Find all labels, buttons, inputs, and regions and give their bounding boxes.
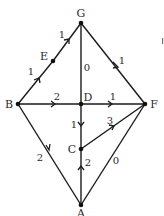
node-label-g: G [77,7,86,20]
weight-c-f: 3 [107,115,113,126]
edge-c-f [81,104,145,149]
node-label-b: B [5,98,13,111]
weight-g-d: 0 [84,62,90,73]
node-label-e: E [40,50,48,63]
node-c [79,147,84,152]
weight-d-f: 1 [110,91,116,102]
node-f [143,102,148,107]
node-e [51,59,56,64]
weight-a-c: 2 [85,157,91,168]
node-label-f: F [150,98,158,111]
weight-d-c: 1 [71,119,77,130]
weight-b-a: 2 [37,152,43,163]
graph-diagram: G E B D F C A 1 1 1 0 2 1 1 3 2 2 0 [0,0,164,216]
weight-e-g: 1 [59,29,65,40]
node-label-a: A [76,207,86,216]
edge-b-e [18,61,53,104]
weight-b-e: 1 [28,66,34,77]
node-label-d: D [84,91,93,104]
edge-e-g [53,23,81,61]
weight-b-d: 2 [54,91,60,102]
stray-mark [162,38,163,44]
node-g [79,21,84,26]
weight-g-f: 1 [119,55,125,66]
node-label-c: C [68,143,76,156]
weight-a-f: 0 [113,155,119,166]
node-b [16,102,21,107]
